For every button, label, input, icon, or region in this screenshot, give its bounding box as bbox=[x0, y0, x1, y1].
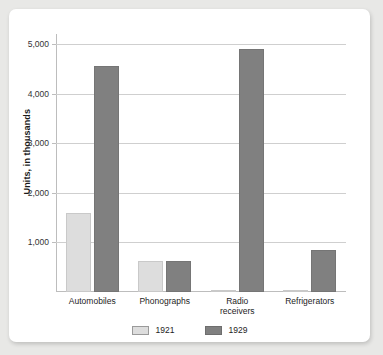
y-tick-label: 1,000 bbox=[28, 237, 49, 247]
x-axis-label-phonographs: Phonographs bbox=[129, 296, 202, 306]
y-tick-mark bbox=[52, 193, 56, 194]
bar-refrigerators-1929 bbox=[311, 250, 336, 292]
x-axis-label-automobiles: Automobiles bbox=[56, 296, 129, 306]
x-axis-label-line: Refrigerators bbox=[274, 296, 347, 306]
chart-legend: 19211929 bbox=[9, 325, 370, 335]
y-tick-label: 2,000 bbox=[28, 188, 49, 198]
x-axis-label-line: Phonographs bbox=[129, 296, 202, 306]
y-axis-line bbox=[56, 34, 57, 292]
x-axis-label-line: Automobiles bbox=[56, 296, 129, 306]
plot-area: 1,0002,0003,0004,0005,000 bbox=[56, 34, 346, 292]
bar-phonographs-1921 bbox=[138, 261, 163, 292]
legend-swatch-1929 bbox=[205, 326, 222, 335]
bar-phonographs-1929 bbox=[166, 261, 191, 292]
legend-label-1929: 1929 bbox=[229, 325, 248, 335]
x-axis-label-line: receivers bbox=[201, 306, 274, 316]
legend-swatch-1921 bbox=[132, 326, 149, 335]
y-tick-mark bbox=[52, 143, 56, 144]
y-tick-label: 5,000 bbox=[28, 39, 49, 49]
chart-card: Units, in thousands 1,0002,0003,0004,000… bbox=[9, 9, 370, 342]
legend-entry-1929[interactable]: 1929 bbox=[205, 325, 248, 335]
bar-radio-receivers-1929 bbox=[239, 49, 264, 292]
bar-automobiles-1929 bbox=[94, 66, 119, 292]
y-tick-mark bbox=[52, 242, 56, 243]
bar-refrigerators-1921 bbox=[283, 290, 308, 292]
bar-radio-receivers-1921 bbox=[211, 290, 236, 292]
y-tick-label: 4,000 bbox=[28, 89, 49, 99]
legend-entry-1921[interactable]: 1921 bbox=[132, 325, 175, 335]
x-axis-label-radio-receivers: Radioreceivers bbox=[201, 296, 274, 316]
x-axis-label-refrigerators: Refrigerators bbox=[274, 296, 347, 306]
bar-automobiles-1921 bbox=[66, 213, 91, 292]
gridline-5000 bbox=[56, 44, 346, 45]
y-axis-title: Units, in thousands bbox=[22, 109, 34, 194]
x-axis-label-line: Radio bbox=[201, 296, 274, 306]
y-tick-label: 3,000 bbox=[28, 138, 49, 148]
y-tick-mark bbox=[52, 94, 56, 95]
y-tick-mark bbox=[52, 44, 56, 45]
legend-label-1921: 1921 bbox=[156, 325, 175, 335]
